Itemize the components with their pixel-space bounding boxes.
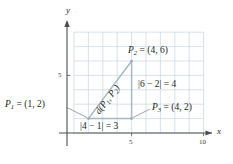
vertical-leg-label: |6 − 2| = 4 [138,80,176,90]
point-label-p2: P2 = (4, 6) [128,46,168,56]
p1-leader-line [66,107,87,118]
y-axis [64,20,70,146]
x-axis-label: x [217,127,221,136]
p3-subscript: 3 [158,106,161,113]
distance-formula-figure: y x 5 5 10 P1 = (1, 2) P2 = (4, 6) P3 = … [0,0,233,164]
point-label-p1: P1 = (1, 2) [5,100,45,110]
p1-coords: = (1, 2) [14,99,45,109]
x-tick-label-5: 5 [129,139,133,146]
p3-letter: P [152,102,158,112]
leader-lines [66,107,150,118]
p2-subscript: 2 [134,49,137,56]
p3-leader-line [133,109,150,118]
p1-letter: P [5,99,11,109]
y-axis-label: y [66,6,70,15]
p2-letter: P [128,45,134,55]
x-tick-label-10: 10 [199,139,206,146]
p1-subscript: 1 [11,103,14,110]
p2-coords: = (4, 6) [137,45,168,55]
y-tick-label-5: 5 [58,72,62,79]
p3-coords: = (4, 2) [161,102,192,112]
horizontal-leg-label: |4 − 1| = 3 [80,122,118,132]
point-label-p3: P3 = (4, 2) [152,103,192,113]
